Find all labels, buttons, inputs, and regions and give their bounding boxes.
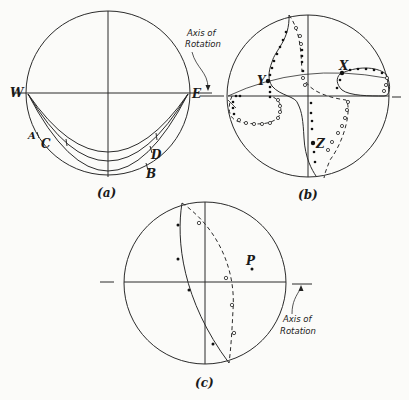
label-X: X <box>338 59 349 73</box>
pole-point <box>177 224 180 227</box>
axis-of-rotation-label-line1: Axis of <box>186 28 218 38</box>
panel-b: X Y Z (b) <box>200 15 401 202</box>
arrow-head-icon <box>299 285 304 291</box>
great-circle-dashed-c <box>182 203 233 363</box>
label-P: P <box>245 254 256 268</box>
label-B: B <box>145 167 156 181</box>
label-east: E <box>191 87 202 101</box>
caption-a: (a) <box>97 186 116 200</box>
label-Y: Y <box>257 74 267 88</box>
pole-point <box>188 289 191 292</box>
axis-of-rotation-label-line2: Rotation <box>185 39 221 49</box>
label-D: D <box>150 148 162 162</box>
curve-left-dashed-loop <box>229 96 281 124</box>
open-point <box>224 276 227 279</box>
pole-point <box>212 343 215 346</box>
point-Y <box>266 79 270 83</box>
axis-pointer-arrow-a <box>192 52 208 88</box>
panel-c: P Axis of Rotation (c) <box>100 202 316 390</box>
open-point <box>230 303 233 306</box>
panel-a: W E A C D B (a) Axis of Rotation <box>10 11 221 200</box>
axis-pointer-arrow-c <box>292 288 301 314</box>
axis-of-rotation-label-line2: Rotation <box>280 326 316 336</box>
tick-mark <box>66 139 67 146</box>
arrow-head-icon <box>206 85 211 91</box>
label-Z: Z <box>315 137 326 151</box>
tick-mark <box>156 133 157 140</box>
caption-c: (c) <box>195 376 214 390</box>
open-point <box>197 221 200 224</box>
point-Z <box>311 141 315 145</box>
axis-of-rotation-label-line1: Axis of <box>282 314 314 324</box>
label-A: A <box>27 130 36 141</box>
pole-point <box>177 258 180 261</box>
label-west: W <box>10 86 25 100</box>
great-circle-arc <box>228 73 386 96</box>
label-C: C <box>41 137 51 151</box>
open-point <box>232 331 235 334</box>
caption-b: (b) <box>298 188 318 202</box>
stereographic-projection-figure: W E A C D B (a) Axis of Rotation <box>0 0 409 400</box>
